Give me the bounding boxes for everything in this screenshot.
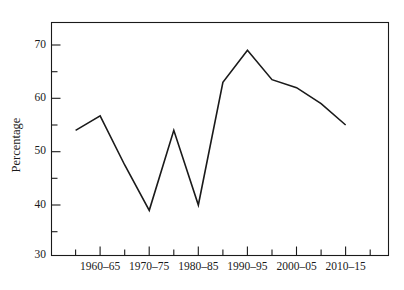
plot-frame [52, 23, 389, 256]
y-tick-label-30: 30 [35, 248, 47, 260]
y-axis-ticks [52, 45, 61, 232]
y-axis-title: Percentage [9, 117, 23, 172]
x-tick-label-2010-15: 2010–15 [325, 260, 366, 272]
y-tick-label-70: 70 [35, 38, 47, 50]
y-tick-label-50: 50 [35, 144, 47, 156]
y-tick-label-60: 60 [35, 91, 47, 103]
line-chart: 70 60 50 40 30 1960–65 1970–75 1980 [0, 0, 404, 290]
x-tick-label-2000-05: 2000–05 [276, 260, 317, 272]
x-tick-label-1990-95: 1990–95 [227, 260, 268, 272]
x-tick-label-1980-85: 1980–85 [178, 260, 219, 272]
y-tick-label-40: 40 [35, 198, 47, 210]
x-tick-label-1960-65: 1960–65 [80, 260, 121, 272]
data-series-percentage [76, 50, 346, 210]
x-axis-ticks [76, 247, 371, 256]
x-axis-tick-labels: 1960–65 1970–75 1980–85 1990–95 2000–05 … [80, 260, 366, 272]
chart-figure: 70 60 50 40 30 1960–65 1970–75 1980 [0, 0, 404, 290]
plot-border [52, 23, 389, 256]
x-tick-label-1970-75: 1970–75 [129, 260, 170, 272]
y-axis-tick-labels: 70 60 50 40 30 [35, 38, 47, 260]
